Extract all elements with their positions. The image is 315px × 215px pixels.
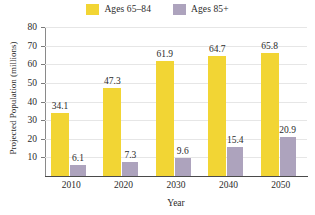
bar-group: 47.37.3 (97, 27, 149, 176)
bar-value-label: 61.9 (150, 49, 180, 60)
bar-group: 65.820.9 (255, 27, 307, 176)
bar-2050-series-2[interactable] (280, 137, 296, 176)
legend-entry-ages-65-84: Ages 65–84 (86, 4, 151, 15)
y-tick-label: 50 (11, 78, 37, 88)
x-axis-line (45, 176, 308, 177)
legend-label-ages-85-plus: Ages 85+ (191, 4, 229, 15)
y-tick-label: 40 (11, 97, 37, 107)
legend-entry-ages-85-plus: Ages 85+ (173, 4, 229, 15)
bar-2020-series-2[interactable] (122, 162, 138, 176)
bar-group: 64.715.4 (202, 27, 254, 176)
bar-group: 61.99.6 (150, 27, 202, 176)
bar-2010-series-1[interactable] (51, 113, 69, 177)
y-tick-label: 80 (11, 22, 37, 32)
y-tick-label: 20 (11, 134, 37, 144)
x-tick-label-2040: 2040 (204, 180, 252, 191)
bar-value-label: 15.4 (220, 135, 250, 146)
y-tick-label: 30 (11, 115, 37, 125)
x-tick-label-2010: 2010 (47, 180, 95, 191)
y-tick-label: 70 (11, 41, 37, 51)
y-tick-label: 60 (11, 59, 37, 69)
legend-swatch-icon-ages-65-84 (86, 4, 99, 15)
plot-area: 34.16.147.37.361.99.664.715.465.820.9 (45, 27, 307, 176)
bar-group: 34.16.1 (45, 27, 97, 176)
legend-label-ages-65-84: Ages 65–84 (104, 4, 151, 15)
bar-2030-series-2[interactable] (175, 158, 191, 176)
bar-value-label: 9.6 (168, 146, 198, 157)
bar-2030-series-1[interactable] (156, 61, 174, 176)
bar-value-label: 34.1 (45, 101, 75, 112)
x-axis-title: Year (45, 198, 307, 209)
x-tick-label-2030: 2030 (152, 180, 200, 191)
x-tick-label-2050: 2050 (257, 180, 305, 191)
bar-2010-series-2[interactable] (70, 165, 86, 176)
bar-2040-series-2[interactable] (227, 147, 243, 176)
bar-value-label: 7.3 (115, 150, 145, 161)
bar-value-label: 65.8 (255, 41, 285, 52)
y-tick-label: 10 (11, 152, 37, 162)
bar-2040-series-1[interactable] (208, 56, 226, 177)
chart-legend: Ages 65–84 Ages 85+ (0, 4, 315, 15)
bar-value-label: 64.7 (202, 44, 232, 55)
bar-chart-figure: Ages 65–84 Ages 85+ Projected Population… (0, 0, 315, 215)
bar-2020-series-1[interactable] (103, 88, 121, 176)
legend-swatch-icon-ages-85-plus (173, 4, 186, 15)
bar-value-label: 20.9 (273, 125, 303, 136)
bar-value-label: 6.1 (63, 153, 93, 164)
bar-2050-series-1[interactable] (261, 53, 279, 176)
bar-value-label: 47.3 (97, 76, 127, 87)
x-tick-label-2020: 2020 (100, 180, 148, 191)
